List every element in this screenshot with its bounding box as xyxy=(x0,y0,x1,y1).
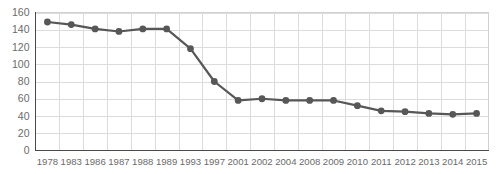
x-tick-label: 2004 xyxy=(275,156,297,167)
y-tick-label: 160 xyxy=(12,6,30,18)
data-point-marker xyxy=(92,25,99,32)
x-tick-label: 2015 xyxy=(466,156,487,167)
y-tick-label: 120 xyxy=(12,41,30,53)
x-tick-label: 1983 xyxy=(61,156,82,167)
x-tick-label: 1987 xyxy=(108,156,129,167)
x-tick-label: 2011 xyxy=(371,156,392,167)
x-tick-label: 1993 xyxy=(180,156,201,167)
line-chart: 020406080100120140160 197819831986198719… xyxy=(0,0,496,174)
data-point-marker xyxy=(473,110,480,117)
data-point-marker xyxy=(139,25,146,32)
y-tick-label: 60 xyxy=(18,92,30,104)
data-point-marker xyxy=(259,95,266,102)
x-tick-label: 1997 xyxy=(204,156,225,167)
data-point-marker xyxy=(378,107,385,114)
data-point-marker xyxy=(330,97,337,104)
x-tick-label: 1978 xyxy=(37,156,58,167)
data-point-marker xyxy=(306,97,313,104)
x-tick-label: 1986 xyxy=(84,156,105,167)
x-tick-label: 2009 xyxy=(323,156,344,167)
data-point-marker xyxy=(449,111,456,118)
y-tick-label: 40 xyxy=(18,110,30,122)
x-tick-label: 2001 xyxy=(227,156,248,167)
data-point-marker xyxy=(163,25,170,32)
x-tick-labels: 1978198319861987198819891993199720012002… xyxy=(37,156,488,167)
data-point-marker xyxy=(68,21,75,28)
y-tick-label: 80 xyxy=(18,75,30,87)
data-point-marker xyxy=(235,97,242,104)
data-point-marker xyxy=(187,45,194,52)
x-tick-label: 2014 xyxy=(442,156,464,167)
data-point-marker xyxy=(44,19,51,26)
y-tick-label: 0 xyxy=(24,144,30,156)
y-tick-label: 100 xyxy=(12,58,30,70)
y-tick-label: 140 xyxy=(12,23,30,35)
data-point-marker xyxy=(116,28,123,35)
data-point-marker xyxy=(402,108,409,115)
x-tick-label: 2002 xyxy=(251,156,272,167)
x-tick-label: 1988 xyxy=(132,156,153,167)
x-tick-label: 2008 xyxy=(299,156,320,167)
x-tick-label: 1989 xyxy=(156,156,177,167)
data-point-marker xyxy=(211,78,218,85)
x-tick-label: 2013 xyxy=(418,156,439,167)
data-point-marker xyxy=(425,110,432,117)
x-tick-label: 2012 xyxy=(394,156,415,167)
y-tick-label: 20 xyxy=(18,127,30,139)
x-tick-label: 2010 xyxy=(347,156,368,167)
chart-canvas: 020406080100120140160 197819831986198719… xyxy=(0,0,496,174)
data-point-marker xyxy=(282,97,289,104)
data-point-marker xyxy=(354,102,361,109)
